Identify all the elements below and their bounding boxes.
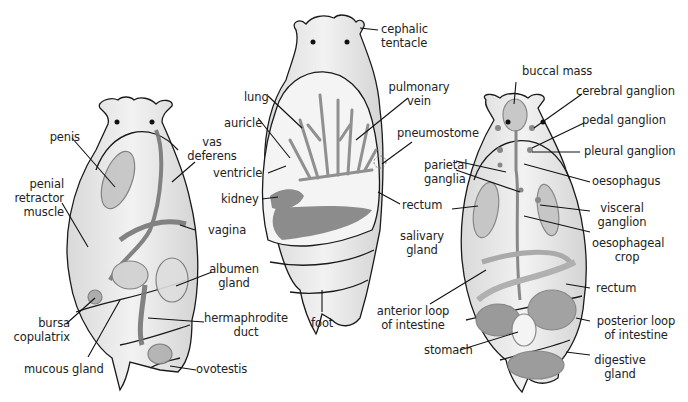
label-penis: penis [38,130,80,144]
label-rectum-middle: rectum [402,198,442,212]
label-buccal-mass: buccal mass [522,64,592,78]
slug-middle-body [262,15,383,334]
label-vas-deferens: vas deferens [182,135,242,163]
label-rectum-right: rectum [596,281,636,295]
label-kidney: kidney [221,192,259,206]
slug-right-body [461,94,586,393]
label-bursa-copulatrix: bursa copulatrix [6,316,70,344]
label-visceral-ganglion: visceral ganglion [592,201,652,229]
label-pulmonary-vein: pulmonary vein [384,80,454,108]
label-oesophagus: oesophagus [592,174,660,188]
label-posterior-loop-of-intestine: posterior loop of intestine [594,314,678,342]
slug-anatomy-illustration [0,0,688,402]
label-cerebral-ganglion: cerebral ganglion [576,84,675,98]
label-stomach: stomach [424,343,473,357]
label-hermaphrodite-duct: hermaphrodite duct [200,311,292,339]
label-parietal-ganglia: parietal ganglia [424,158,467,186]
label-pleural-ganglion: pleural ganglion [584,144,676,158]
label-mucous-gland: mucous gland [24,362,104,376]
label-pedal-ganglion: pedal ganglion [582,113,666,127]
label-digestive-gland: digestive gland [592,353,648,381]
label-auricle: auricle [224,116,262,130]
label-vagina: vagina [208,223,246,237]
label-cephalic-tentacle: cephalic tentacle [381,22,428,50]
slug-left-body [67,97,198,390]
label-penial-retractor-muscle: penial retractor muscle [4,177,64,219]
label-ventricle: ventricle [213,166,262,180]
label-albumen-gland: albumen gland [206,262,262,290]
label-ovotestis: ovotestis [196,362,247,376]
label-salivary-gland: salivary gland [394,229,450,257]
label-pneumostome: pneumostome [397,126,479,140]
label-anterior-loop-of-intestine: anterior loop of intestine [374,304,452,332]
label-lung: lung [244,90,269,104]
label-foot: foot [311,316,333,330]
label-oesophageal-crop: oesophageal crop [592,236,662,264]
